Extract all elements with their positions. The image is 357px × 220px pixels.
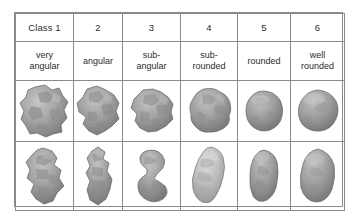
grain-cell-2-1 <box>16 142 74 211</box>
grain-angular-b-icon <box>74 142 122 210</box>
class-header-label-4: 4 <box>206 22 211 33</box>
class-header-cell-1: Class 1 <box>16 14 74 42</box>
class-name-line-2a: angular <box>74 56 122 67</box>
grain-rounded-a-icon <box>238 81 290 141</box>
class-header-label-3: 3 <box>149 22 154 33</box>
class-name-cell-5: rounded <box>238 42 291 81</box>
grain-cell-1-6 <box>291 81 345 142</box>
grain-cell-2-2 <box>74 142 123 211</box>
grain-very-angular-b-icon <box>16 142 73 210</box>
class-header-cell-5: 5 <box>238 14 291 42</box>
class-header-cell-2: 2 <box>74 14 123 42</box>
grain-cell-1-1 <box>16 81 74 142</box>
class-header-cell-3: 3 <box>123 14 181 42</box>
grain-sub-angular-b-icon <box>123 142 180 210</box>
grain-well-rounded-b-icon <box>291 142 344 210</box>
class-name-cell-1: very angular <box>16 42 74 81</box>
class-name-line-3b: angular <box>123 61 180 72</box>
grain-cell-1-5 <box>238 81 291 142</box>
class-name-line-3a: sub- <box>123 50 180 61</box>
class-name-line-6b: rounded <box>291 61 344 72</box>
class-header-cell-6: 6 <box>291 14 345 42</box>
class-name-line-1a: very <box>16 50 73 61</box>
grain-very-angular-a-icon <box>16 81 73 141</box>
class-name-line-5a: rounded <box>238 56 290 67</box>
grain-angular-a-icon <box>74 81 122 141</box>
grain-cell-1-3 <box>123 81 181 142</box>
grain-row-2 <box>16 142 345 211</box>
class-name-line-4a: sub- <box>181 50 237 61</box>
grain-sub-rounded-a-icon <box>181 81 237 141</box>
grain-sub-rounded-b-icon <box>181 142 237 210</box>
class-name-cell-3: sub- angular <box>123 42 181 81</box>
class-name-cell-6: well rounded <box>291 42 345 81</box>
class-header-row: Class 1 2 3 4 5 6 <box>16 14 345 42</box>
roundness-chart: Class 1 2 3 4 5 6 very angular angular s… <box>14 12 343 207</box>
class-header-label-5: 5 <box>261 22 266 33</box>
grain-well-rounded-a-icon <box>291 81 344 141</box>
class-name-line-4b: rounded <box>181 61 237 72</box>
grain-cell-2-4 <box>181 142 238 211</box>
class-name-row: very angular angular sub- angular sub- r… <box>16 42 345 81</box>
roundness-table: Class 1 2 3 4 5 6 very angular angular s… <box>15 13 345 211</box>
grain-rounded-b-icon <box>238 142 290 210</box>
grain-cell-2-3 <box>123 142 181 211</box>
grain-cell-2-6 <box>291 142 345 211</box>
class-name-cell-4: sub- rounded <box>181 42 238 81</box>
class-header-label-6: 6 <box>315 22 320 33</box>
grain-cell-1-4 <box>181 81 238 142</box>
class-header-label-2: 2 <box>95 22 100 33</box>
grain-sub-angular-a-icon <box>123 81 180 141</box>
class-name-line-6a: well <box>291 50 344 61</box>
grain-cell-1-2 <box>74 81 123 142</box>
class-name-line-1b: angular <box>16 61 73 72</box>
grain-row-1 <box>16 81 345 142</box>
class-header-cell-4: 4 <box>181 14 238 42</box>
grain-cell-2-5 <box>238 142 291 211</box>
class-header-label-1: Class 1 <box>28 22 60 33</box>
class-name-cell-2: angular <box>74 42 123 81</box>
